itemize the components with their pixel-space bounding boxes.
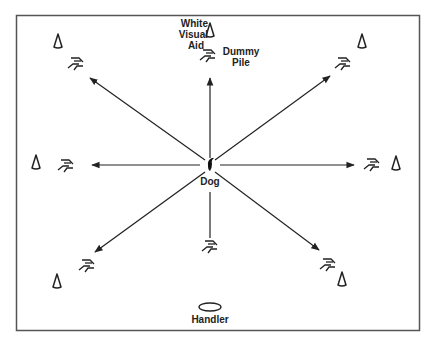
dog-label: Dog	[195, 176, 225, 187]
label-line: Aid	[168, 40, 208, 51]
handler-label: Handler	[185, 314, 235, 325]
dummy-pile-label: Dummy Pile	[219, 46, 263, 68]
label-line: Pile	[219, 57, 263, 68]
field-frame	[17, 16, 420, 331]
label-line: Visual	[168, 29, 208, 40]
white-visual-aid-label: White Visual Aid	[168, 18, 208, 51]
handler-icon	[199, 303, 221, 311]
label-line: White	[168, 18, 208, 29]
label-line: Dummy	[219, 46, 263, 57]
dog-training-diagram	[0, 0, 436, 348]
